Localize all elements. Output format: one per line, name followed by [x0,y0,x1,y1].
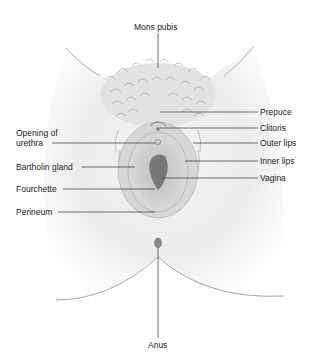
label-mons-pubis: Mons pubis [134,22,177,32]
label-fourchette: Fourchette [16,184,57,194]
label-vagina: Vagina [260,173,286,183]
label-anus: Anus [148,340,167,350]
label-inner-lips: Inner lips [260,156,295,166]
vulva [118,122,198,218]
label-clitoris: Clitoris [260,123,286,133]
label-outer-lips: Outer lips [260,138,296,148]
label-bartholin-gland: Bartholin gland [16,162,73,172]
anus-mark [155,238,162,248]
label-prepuce: Prepuce [260,107,292,117]
label-perineum: Perineum [16,207,52,217]
label-opening-of-urethra: Opening of urethra [16,128,58,148]
